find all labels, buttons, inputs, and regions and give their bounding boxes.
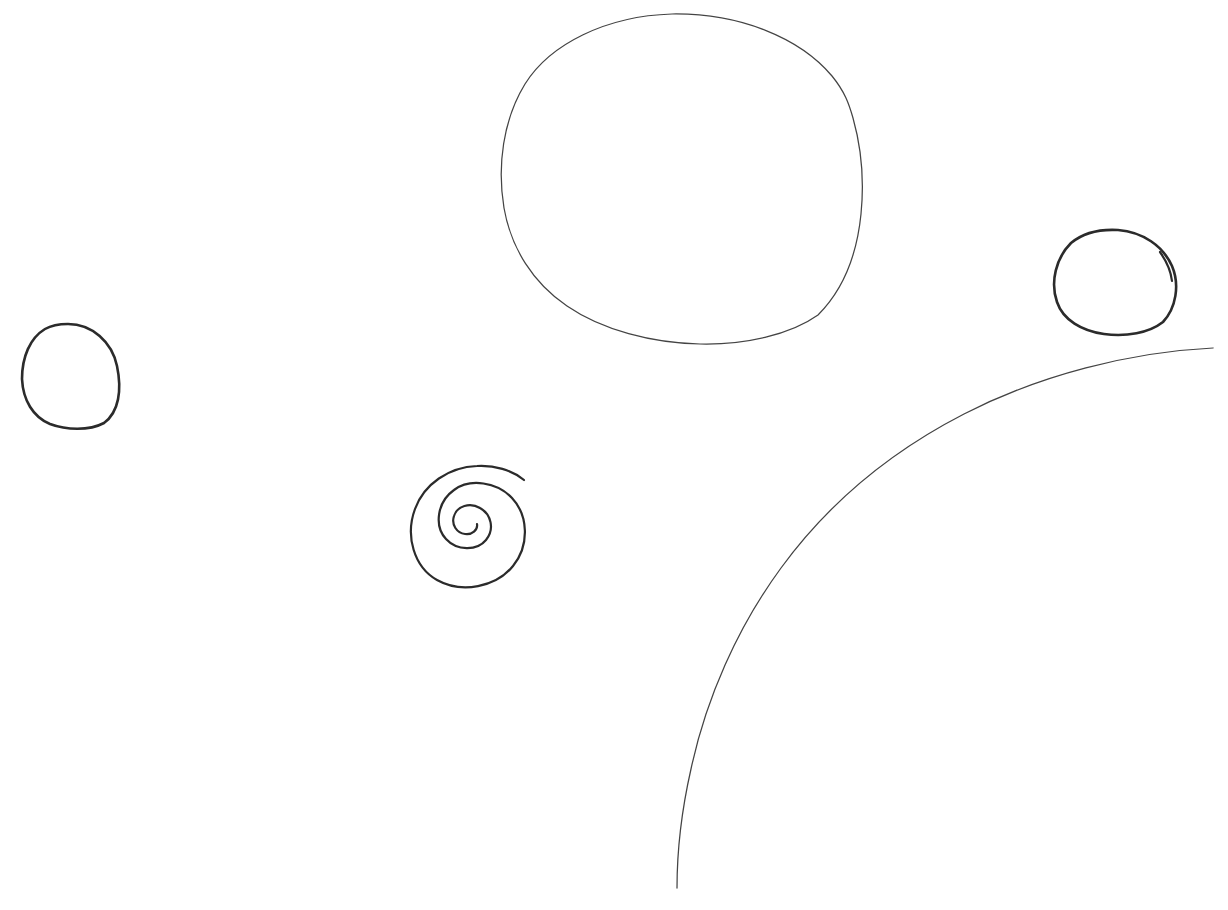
footer-cropped-text xyxy=(8,901,268,910)
sketch-drawing xyxy=(0,0,1228,910)
sketch-canvas xyxy=(0,0,1228,910)
paper-background xyxy=(0,0,1228,910)
